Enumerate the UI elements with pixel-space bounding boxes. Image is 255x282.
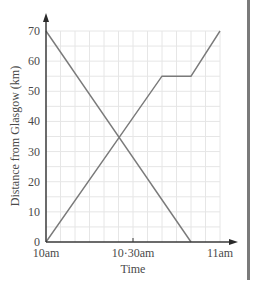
x-axis-arrow-icon — [229, 239, 238, 245]
y-tick-label: 20 — [28, 175, 40, 189]
grid — [46, 31, 220, 242]
x-tick-label: 10·30am — [112, 246, 155, 260]
y-tick-label: 60 — [28, 54, 40, 68]
page-divider — [247, 0, 250, 280]
y-tick-label: 50 — [28, 84, 40, 98]
y-tick-label: 70 — [28, 24, 40, 38]
x-tick-label: 11am — [207, 246, 234, 260]
y-tick-label: 10 — [28, 205, 40, 219]
x-tick-label: 10am — [33, 246, 60, 260]
y-tick-label: 30 — [28, 145, 40, 159]
y-tick-labels: 010203040506070 — [28, 24, 40, 249]
y-axis-title: Distance from Glasgow (km) — [8, 66, 22, 206]
y-axis-arrow-icon — [43, 13, 49, 22]
x-axis-title: Time — [121, 262, 146, 276]
distance-time-graph: 010203040506070 10am10·30am11am Time Dis… — [0, 0, 255, 282]
y-tick-label: 40 — [28, 114, 40, 128]
